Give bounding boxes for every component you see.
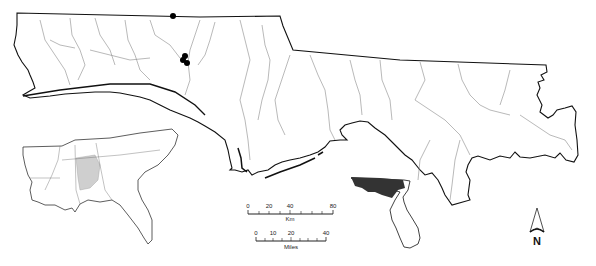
scale-mi-tick-2: 20: [288, 230, 295, 236]
barrier-island-stjoe: [238, 148, 247, 172]
inset-florida: [351, 177, 420, 248]
north-arrow: N: [530, 208, 544, 247]
site-marker: [184, 60, 190, 66]
map-figure: 0 20 40 80 Km 0 10 20 40 Miles N: [0, 0, 596, 266]
scale-mi-unit: Miles: [284, 244, 298, 250]
barrier-island-stgeorge: [265, 158, 315, 178]
north-label: N: [533, 235, 541, 247]
scale-km-tick-3: 80: [330, 203, 337, 209]
barrier-island-west: [23, 84, 205, 115]
barrier-island-dog: [318, 152, 323, 155]
scale-km-tick-0: 0: [246, 203, 250, 209]
southeast-outline: [23, 129, 178, 244]
inset-southeast-us: [23, 129, 178, 244]
scale-mi-tick-3: 40: [323, 230, 330, 236]
scale-bar-km: 0 20 40 80 Km: [246, 203, 337, 222]
scale-km-unit: Km: [286, 216, 295, 222]
scale-mi-tick-0: 0: [254, 230, 258, 236]
scale-km-tick-1: 20: [266, 203, 273, 209]
sampling-sites: [170, 13, 190, 66]
panhandle-highlight: [351, 177, 405, 198]
site-marker: [170, 13, 176, 19]
scale-bar-miles: 0 10 20 40 Miles: [254, 230, 330, 250]
scale-km-tick-2: 40: [287, 203, 294, 209]
scale-mi-tick-1: 10: [270, 230, 277, 236]
